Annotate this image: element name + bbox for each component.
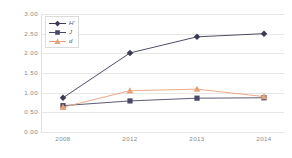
- y-tick-label: 3.00: [2, 11, 38, 17]
- legend-item-H: H': [49, 19, 74, 27]
- y-tick-label: 1.50: [2, 70, 38, 76]
- data-point: [261, 30, 268, 36]
- data-point: [127, 98, 132, 103]
- x-tick-label: 2008: [55, 136, 70, 142]
- line-chart: 0.000.501.001.502.002.503.00 20082012201…: [0, 0, 292, 158]
- legend-label: d: [69, 38, 72, 44]
- diamond-marker-icon: [49, 20, 66, 27]
- x-tick-label: 2014: [256, 136, 271, 142]
- gridline: [41, 132, 284, 133]
- x-axis-ticks: 2008201220132014: [41, 136, 284, 150]
- data-point: [194, 96, 199, 101]
- legend-item-J: J: [49, 28, 74, 36]
- legend-item-d: d: [49, 37, 74, 45]
- y-tick-label: 1.00: [2, 90, 38, 96]
- legend-label: H': [69, 20, 74, 26]
- y-tick-label: 2.00: [2, 50, 38, 56]
- legend-label: J: [69, 29, 72, 35]
- series-H: [60, 30, 268, 101]
- series-line: [63, 34, 264, 98]
- data-point: [60, 95, 67, 102]
- y-tick-label: 0.50: [2, 109, 38, 115]
- triangle-marker-icon: [49, 38, 66, 45]
- square-marker-icon: [49, 29, 66, 36]
- series-J: [60, 95, 266, 108]
- chart-legend: H'Jd: [45, 16, 79, 48]
- x-tick-label: 2012: [122, 136, 137, 142]
- y-tick-label: 0.00: [2, 129, 38, 135]
- y-tick-label: 2.50: [2, 31, 38, 37]
- data-point: [194, 34, 201, 41]
- series-line: [63, 98, 264, 106]
- y-axis-ticks: 0.000.501.001.502.002.503.00: [0, 14, 38, 132]
- x-tick-label: 2013: [189, 136, 204, 142]
- data-point: [127, 50, 134, 57]
